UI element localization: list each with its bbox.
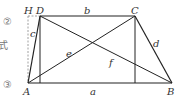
marker-3: ③ — [3, 79, 12, 90]
segment-label-c: c — [30, 28, 36, 39]
vertex-label-D: D — [35, 5, 44, 16]
trapezoid-diagram: H D C A B a b c d e f ② 式 ③ — [0, 0, 177, 99]
vertex-label-B: B — [166, 86, 174, 97]
diagonal-f-DB — [40, 16, 172, 83]
side-d-CB — [135, 16, 172, 83]
vertex-label-H: H — [23, 5, 33, 16]
diagonal-e-AC — [28, 16, 135, 83]
vertex-label-C: C — [131, 5, 139, 16]
segment-label-b: b — [84, 5, 90, 16]
segment-label-d: d — [153, 38, 159, 49]
vertex-label-A: A — [22, 86, 30, 97]
side-c-AD — [28, 16, 40, 83]
segment-label-e: e — [66, 48, 72, 59]
segment-label-f: f — [108, 57, 115, 68]
segment-label-a: a — [90, 86, 96, 97]
formula-char: 式 — [0, 39, 8, 51]
marker-2: ② — [3, 16, 12, 27]
